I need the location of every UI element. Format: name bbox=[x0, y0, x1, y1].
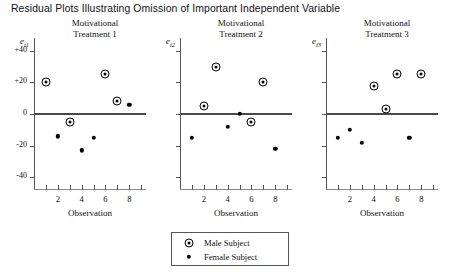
y-axis-tick-label: +40 bbox=[14, 45, 27, 54]
data-point-male bbox=[65, 117, 74, 126]
circled-dot-icon bbox=[182, 236, 196, 249]
x-axis-tick-label: 8 bbox=[419, 194, 423, 204]
y-axis-tick-label: 0 bbox=[23, 108, 27, 117]
y-axis-tick bbox=[176, 51, 181, 52]
y-axis-tick bbox=[176, 146, 181, 147]
data-point-female bbox=[127, 102, 131, 106]
data-point-female bbox=[56, 134, 60, 138]
y-axis-tick bbox=[176, 114, 181, 115]
data-point-male bbox=[381, 105, 390, 114]
x-axis-tick-label: 4 bbox=[80, 194, 84, 204]
x-axis-tick bbox=[228, 185, 229, 190]
data-point-female bbox=[348, 128, 352, 132]
x-axis-tick bbox=[117, 185, 118, 190]
x-axis-tick bbox=[204, 185, 205, 190]
plot-area: 2468Observation bbox=[326, 38, 438, 190]
panel-subtitle-line1: Motivational bbox=[40, 18, 150, 29]
x-axis-tick bbox=[129, 185, 130, 190]
x-axis-tick-label: 2 bbox=[348, 194, 352, 204]
panel-subtitle-line1: Motivational bbox=[186, 18, 296, 29]
x-axis-tick bbox=[386, 185, 387, 190]
y-axis-tick bbox=[322, 51, 327, 52]
data-point-male bbox=[199, 102, 208, 111]
x-axis-tick bbox=[46, 185, 47, 190]
x-axis-tick bbox=[82, 185, 83, 190]
legend-label-male: Male Subject bbox=[204, 238, 250, 248]
data-point-female bbox=[91, 136, 95, 140]
y-axis-tick bbox=[176, 82, 181, 83]
x-axis-tick-label: 6 bbox=[249, 194, 253, 204]
residual-plot-panel-1: Motivational Treatment 1 ei1 +40+200-20-… bbox=[4, 18, 154, 218]
x-axis-tick-label: 4 bbox=[226, 194, 230, 204]
x-axis-tick bbox=[251, 185, 252, 190]
x-axis-tick bbox=[70, 185, 71, 190]
legend-item-male: Male Subject bbox=[182, 236, 250, 249]
x-axis-tick-label: 8 bbox=[127, 194, 131, 204]
x-axis-tick bbox=[421, 185, 422, 190]
y-axis-tick bbox=[176, 177, 181, 178]
data-point-male bbox=[369, 81, 378, 90]
panel-subtitle: Motivational Treatment 1 bbox=[40, 18, 150, 40]
x-axis-tick bbox=[374, 185, 375, 190]
residual-plot-panel-2: Motivational Treatment 2 ei2 2468Observa… bbox=[150, 18, 300, 218]
x-axis-tick bbox=[240, 185, 241, 190]
x-axis-tick bbox=[287, 185, 288, 190]
y-axis-tick: -40 bbox=[30, 177, 35, 178]
legend-label-female: Female Subject bbox=[204, 252, 257, 262]
data-point-male bbox=[211, 62, 220, 71]
solid-dot-icon bbox=[182, 250, 196, 263]
figure-title: Residual Plots Illustrating Omission of … bbox=[11, 3, 340, 14]
x-axis-tick bbox=[409, 185, 410, 190]
x-axis-tick bbox=[362, 185, 363, 190]
data-point-male bbox=[417, 70, 426, 79]
x-axis-tick bbox=[338, 185, 339, 190]
x-axis-tick bbox=[94, 185, 95, 190]
legend-box: Male Subject Female Subject bbox=[171, 232, 289, 266]
y-axis-tick: 0 bbox=[30, 114, 35, 115]
x-axis-tick bbox=[433, 185, 434, 190]
y-axis-tick bbox=[322, 82, 327, 83]
panel-subtitle-line1: Motivational bbox=[332, 18, 442, 29]
data-point-female bbox=[225, 124, 229, 128]
plot-area: 2468Observation bbox=[180, 38, 292, 190]
y-axis-tick-label: -20 bbox=[16, 140, 27, 149]
y-axis-tick-label: +20 bbox=[14, 76, 27, 85]
x-axis-tick-label: 8 bbox=[273, 194, 277, 204]
x-axis-title: Observation bbox=[180, 208, 292, 218]
zero-reference-line bbox=[180, 113, 292, 115]
plot-area: +40+200-20-402468Observation bbox=[34, 38, 146, 190]
x-axis-tick-label: 2 bbox=[202, 194, 206, 204]
x-axis-tick bbox=[141, 185, 142, 190]
data-point-female bbox=[273, 147, 277, 151]
x-axis-tick bbox=[58, 185, 59, 190]
data-point-male bbox=[101, 70, 110, 79]
panel-subtitle: Motivational Treatment 3 bbox=[332, 18, 442, 40]
data-point-female bbox=[336, 136, 340, 140]
y-axis-label: ei3 bbox=[312, 36, 321, 48]
data-point-male bbox=[113, 97, 122, 106]
x-axis-tick-label: 2 bbox=[56, 194, 60, 204]
y-axis-tick bbox=[322, 146, 327, 147]
residual-plot-panel-3: Motivational Treatment 3 ei3 2468Observa… bbox=[296, 18, 446, 218]
y-axis-tick: +40 bbox=[30, 51, 35, 52]
x-axis-tick bbox=[275, 185, 276, 190]
y-axis-tick bbox=[322, 177, 327, 178]
x-axis-tick-label: 6 bbox=[395, 194, 399, 204]
zero-reference-line bbox=[326, 113, 438, 115]
x-axis-tick bbox=[192, 185, 193, 190]
data-point-male bbox=[247, 117, 256, 126]
data-point-male bbox=[393, 70, 402, 79]
data-point-female bbox=[79, 148, 83, 152]
panel-subtitle: Motivational Treatment 2 bbox=[186, 18, 296, 40]
data-point-male bbox=[41, 78, 50, 87]
y-axis-tick-label: -40 bbox=[16, 171, 27, 180]
x-axis-title: Observation bbox=[34, 208, 146, 218]
x-axis-tick bbox=[216, 185, 217, 190]
data-point-female bbox=[360, 140, 364, 144]
x-axis-tick bbox=[105, 185, 106, 190]
x-axis-tick bbox=[350, 185, 351, 190]
y-axis-tick bbox=[322, 114, 327, 115]
y-axis-tick: +20 bbox=[30, 82, 35, 83]
zero-reference-line bbox=[34, 113, 146, 115]
x-axis-tick-label: 4 bbox=[372, 194, 376, 204]
